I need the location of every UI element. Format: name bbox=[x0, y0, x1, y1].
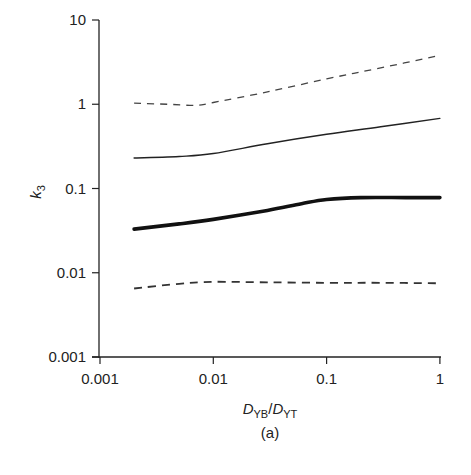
y-tick-label: 0.01 bbox=[57, 264, 86, 281]
series-line-1 bbox=[134, 55, 440, 105]
y-tick-label: 0.001 bbox=[48, 348, 86, 365]
axes bbox=[92, 20, 441, 358]
series-line-3 bbox=[134, 197, 440, 229]
y-tick-label: 10 bbox=[69, 11, 86, 28]
x-tick-label: 1 bbox=[436, 370, 444, 387]
x-ticks: 0.0010.010.11 bbox=[81, 357, 444, 387]
y-tick-label: 1 bbox=[78, 95, 86, 112]
x-tick-label: 0.01 bbox=[199, 370, 228, 387]
y-ticks: 0.0010.010.1110 bbox=[48, 11, 99, 365]
chart-canvas: 0.0010.010.1110 0.0010.010.11 k3 DYB/DYT… bbox=[0, 0, 471, 475]
x-tick-label: 0.1 bbox=[316, 370, 337, 387]
series-line-2 bbox=[134, 118, 440, 158]
y-axis-label: k3 bbox=[27, 185, 47, 199]
series-line-4 bbox=[134, 282, 440, 289]
y-tick-label: 0.1 bbox=[65, 180, 86, 197]
series-lines bbox=[134, 55, 440, 288]
figure-caption: (a) bbox=[261, 424, 279, 441]
x-axis-label: DYB/DYT bbox=[243, 400, 298, 420]
x-tick-label: 0.001 bbox=[81, 370, 119, 387]
